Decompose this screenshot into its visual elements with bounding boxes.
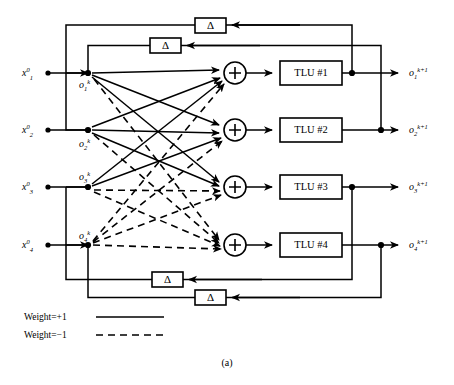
delay-block-group-4[interactable]: Δ xyxy=(195,290,226,305)
summing-junction-group-4 xyxy=(224,234,246,256)
figure-caption: (a) xyxy=(221,357,232,369)
tlu-block-group-4[interactable]: TLU #4 xyxy=(280,233,342,257)
summing-junction-group-3 xyxy=(224,176,246,198)
input-label-3: x03 xyxy=(21,180,34,195)
weight-o3-to-sum4 xyxy=(94,192,220,246)
output-label-4: o4k+1 xyxy=(409,238,428,252)
output-label-2: o2k+1 xyxy=(409,123,428,137)
weight-o2-to-sum1 xyxy=(92,78,220,127)
input-label-4: x04 xyxy=(21,238,34,253)
output-tap-4 xyxy=(378,242,384,248)
node-label-o2: o2k xyxy=(79,137,90,151)
node-label-o4: o4k xyxy=(79,229,90,243)
summing-junction-group-1 xyxy=(224,62,246,84)
tlu-block-group-2[interactable]: TLU #2 xyxy=(280,118,342,142)
delay-block-group-1[interactable]: Δ xyxy=(195,18,226,33)
delay-block-group-3[interactable]: Δ xyxy=(152,272,183,287)
node-dots xyxy=(85,70,91,248)
legend-label-negative: Weight=−1 xyxy=(24,330,67,340)
weight-o3-to-sum3 xyxy=(94,190,220,191)
output-tap-1 xyxy=(349,70,355,76)
node-dot-o2 xyxy=(85,127,91,133)
feedback-wire-2-left xyxy=(88,46,150,74)
weights-from-o1 xyxy=(92,70,219,240)
tlu-label-3: TLU #3 xyxy=(294,181,328,192)
output-label-1: o1k+1 xyxy=(409,66,428,80)
weight-legend: Weight=+1 Weight=−1 xyxy=(24,312,164,340)
weights-from-o4 xyxy=(93,84,224,249)
output-tap-2 xyxy=(378,127,384,133)
delay-label-2: Δ xyxy=(162,39,169,51)
input-labels: x01 x02 x03 x04 xyxy=(21,66,34,253)
node-label-o3: o3k xyxy=(79,170,90,184)
node-label-o1: o1k xyxy=(79,78,90,92)
weight-o1-to-sum1 xyxy=(92,70,219,73)
tlu-label-1: TLU #1 xyxy=(294,67,328,78)
node-dot-o3 xyxy=(85,184,91,190)
node-labels: o1k o2k o3k o4k xyxy=(79,78,90,243)
sum-to-tlu-wires xyxy=(246,73,272,245)
delay-label-4: Δ xyxy=(207,291,214,303)
feedback-wire-3-left xyxy=(66,245,152,280)
input-label-2: x02 xyxy=(21,123,34,138)
tlu-block-group-3[interactable]: TLU #3 xyxy=(280,175,342,199)
weight-o4-to-sum1 xyxy=(93,84,224,241)
feedback-bus-left-upper xyxy=(66,73,88,130)
output-wires xyxy=(342,70,398,248)
delay-block-group-2[interactable]: Δ xyxy=(150,38,181,53)
tlu-block-group-1[interactable]: TLU #1 xyxy=(280,61,342,85)
delay-label-1: Δ xyxy=(207,19,214,31)
input-label-1: x01 xyxy=(21,66,33,81)
tlu-label-4: TLU #4 xyxy=(294,239,328,250)
delay-label-3: Δ xyxy=(164,273,171,285)
legend-label-positive: Weight=+1 xyxy=(24,312,67,322)
weight-o4-to-sum4 xyxy=(93,245,221,249)
output-tap-3 xyxy=(349,184,355,190)
output-labels: o1k+1 o2k+1 o3k+1 o4k+1 xyxy=(409,66,428,252)
summing-junction-group-2 xyxy=(224,119,246,141)
node-dot-o1 xyxy=(85,70,91,76)
weight-o2-to-sum3 xyxy=(92,133,219,186)
network-diagram: TLU #1 TLU #2 TLU #3 TLU #4 Δ Δ Δ xyxy=(0,0,454,385)
tlu-label-2: TLU #2 xyxy=(294,124,328,135)
output-label-3: o3k+1 xyxy=(409,180,428,194)
figure-root: TLU #1 TLU #2 TLU #3 TLU #4 Δ Δ Δ xyxy=(0,0,454,385)
